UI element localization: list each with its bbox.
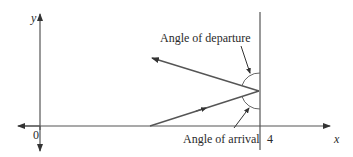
arrival-pointer [234, 108, 249, 128]
x-axis-label: x [334, 133, 339, 145]
arrival-ray-arrow-icon [196, 108, 206, 111]
departure-angle-arc [242, 73, 260, 86]
tick-label-4: 4 [267, 133, 273, 145]
arrival-label: Angle of arrival [183, 133, 260, 145]
departure-ray [152, 58, 259, 91]
arrival-angle-arc [242, 97, 260, 110]
y-axis-label: y [31, 12, 36, 24]
diagram-canvas [0, 0, 353, 157]
departure-label: Angle of departure [160, 32, 251, 44]
departure-pointer [241, 46, 250, 73]
origin-label: 0 [33, 129, 39, 141]
